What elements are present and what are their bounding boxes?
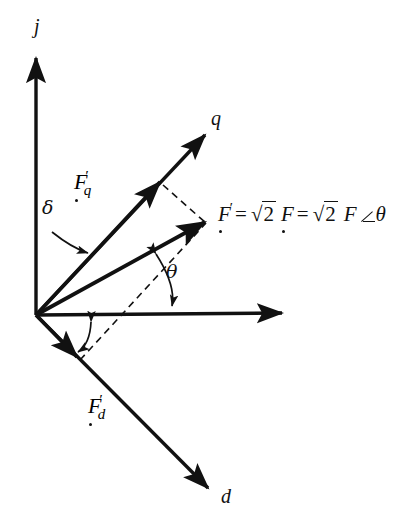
vector-Fq-prime: [36, 182, 160, 315]
vector-Fd-prime: [36, 315, 77, 357]
delta-leader-arc: [52, 232, 88, 253]
vector-label-Fq-base: F: [74, 169, 87, 194]
figure-canvas: j q d δ θ F′q F′d F′=√2F=√2Fθ: [0, 0, 405, 531]
vector-label-Fd-prime: F′d: [88, 392, 105, 423]
vector-F-prime-resultant: [36, 222, 205, 315]
vector-label-Fq-core: F: [74, 169, 87, 195]
equation-radicand-1: 2: [262, 201, 276, 227]
equation-term-1: F: [281, 202, 294, 227]
angle-label-theta: θ: [166, 262, 177, 281]
equation-radical-2: √2: [312, 201, 338, 227]
vector-label-Fq-prime: F′q: [74, 168, 91, 199]
equation-term-2: F: [344, 202, 357, 226]
angle-glyph-icon: [363, 206, 375, 223]
radical-sign-icon: √: [251, 202, 263, 226]
equation-lhs-base: F: [218, 202, 231, 226]
axis-label-j: j: [34, 16, 40, 36]
axis-label-q: q: [211, 108, 221, 128]
axis-label-d: d: [221, 486, 231, 506]
vector-label-Fd-core: F: [88, 393, 101, 419]
construction-dashed-q-side: [163, 185, 206, 223]
angle-label-delta: δ: [42, 198, 53, 217]
equation-equals-1: =: [235, 202, 247, 226]
equation-lhs-F: F: [218, 202, 231, 227]
equation-equals-2: =: [297, 202, 309, 226]
lower-angle-arc: [78, 322, 91, 352]
equation-radicand-2: 2: [324, 201, 338, 227]
equation-angle-variable: θ: [376, 202, 386, 226]
phasor-dot-icon: [219, 230, 222, 233]
resultant-equation: F′=√2F=√2Fθ: [218, 200, 386, 227]
equation-term-1-base: F: [281, 202, 294, 226]
radical-sign-icon: √: [313, 202, 325, 226]
equation-radical-1: √2: [250, 201, 276, 227]
vector-label-Fd-base: F: [88, 393, 101, 418]
construction-dashed-d-side: [80, 223, 206, 360]
axis-horizontal: [36, 313, 282, 315]
vector-diagram: [0, 0, 405, 531]
phasor-dot-icon: [282, 230, 285, 233]
